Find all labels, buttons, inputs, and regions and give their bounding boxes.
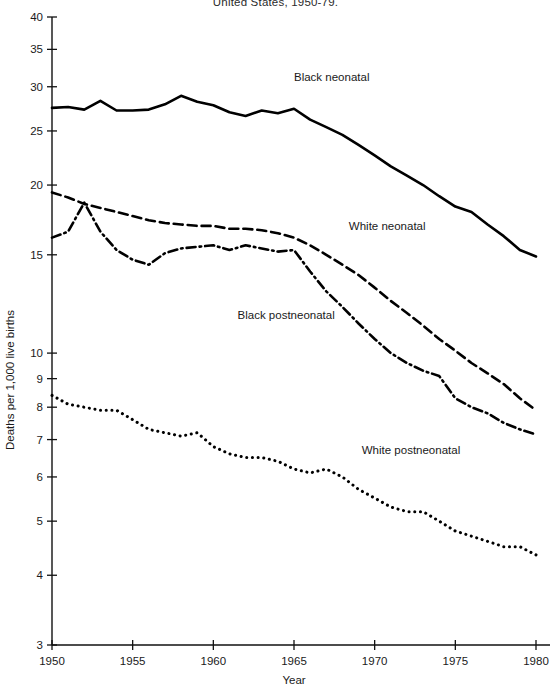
x-axis-tick-label: 1960 [201,655,227,667]
y-axis-tick-label: 20 [30,179,43,191]
y-axis-tick-label: 35 [30,43,43,55]
x-axis-tick-label: 1950 [39,655,65,667]
y-axis-tick-label: 15 [30,249,43,261]
y-axis-tick-label: 9 [37,373,43,385]
y-axis-tick-label: 7 [37,434,43,446]
y-axis-tick-label: 25 [30,125,43,137]
chart-container: United States, 1950-79. 4035302520151098… [0,0,551,690]
y-axis-tick-label: 5 [37,515,43,527]
x-axis-tick-label: 1965 [281,655,307,667]
series-annotations: Black neonatalWhite neonatalBlack postne… [238,71,461,456]
x-axis-tick-label: 1980 [523,655,549,667]
infant-mortality-line-chart: 403530252015109876543 195019551960196519… [0,0,551,690]
series-label-white-postneonatal: White postneonatal [362,444,460,456]
series-label-white-neonatal: White neonatal [349,220,426,232]
y-axis-tick-label: 8 [37,401,43,413]
y-axis-tick-label: 3 [37,639,43,651]
y-axis-tick-label: 6 [37,471,43,483]
y-axis-tick-label: 40 [30,11,43,23]
y-axis-title: Deaths per 1,000 live births [4,310,16,450]
series-label-black-neonatal: Black neonatal [294,71,369,83]
x-axis-tick-label: 1975 [443,655,469,667]
series-line-white-neonatal [52,192,536,410]
y-axis-tick-label: 30 [30,81,43,93]
y-axis-tick-label: 10 [30,347,43,359]
x-axis-title: Year [282,674,305,686]
x-axis-tick-label: 1970 [362,655,388,667]
series-label-black-postneonatal: Black postneonatal [238,309,335,321]
x-axis-tick-label: 1955 [120,655,146,667]
series-line-white-postneonatal [52,395,536,555]
x-axis: 1950195519601965197019751980 [39,640,550,667]
y-axis-tick-label: 4 [37,569,44,581]
series-curves [52,96,536,555]
series-line-black-neonatal [52,96,536,257]
